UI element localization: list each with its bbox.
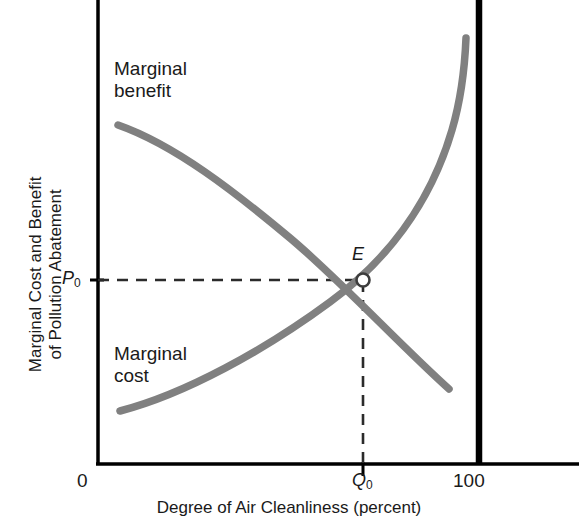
equilibrium-label: E xyxy=(352,244,364,265)
marginal-benefit-label: Marginal benefit xyxy=(114,58,187,103)
p0-base: P xyxy=(62,268,74,288)
x-axis-title: Degree of Air Cleanliness (percent) xyxy=(98,498,480,518)
marginal-cost-label: Marginal cost xyxy=(114,343,187,388)
x-axis-tick-label-hundred: 100 xyxy=(453,470,485,492)
x-axis-tick-label-zero: 0 xyxy=(77,470,88,492)
p0-subscript: 0 xyxy=(74,276,81,290)
q0-subscript: 0 xyxy=(366,478,373,492)
y-axis-title-line1: Marginal Cost and Benefit xyxy=(26,177,45,373)
y-axis-title: Marginal Cost and Benefitof Pollution Ab… xyxy=(26,124,67,424)
equilibrium-point-marker xyxy=(357,274,370,287)
q0-base: Q xyxy=(352,470,366,490)
chart-plot-area xyxy=(0,0,579,520)
economics-chart-figure: Marginal Cost and Benefitof Pollution Ab… xyxy=(0,0,579,520)
x-axis-tick-label-q0: Q0 xyxy=(352,470,373,492)
y-axis-tick-label-p0: P0 xyxy=(62,268,81,290)
